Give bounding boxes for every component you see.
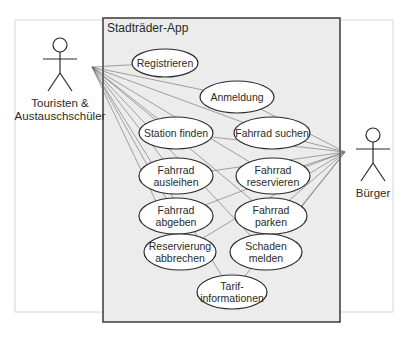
use-case-fahrrad-abgeben[interactable]: Fahrradabgeben [139,198,213,234]
use-case-label: ausleihen [154,176,199,188]
system-title: Stadträder-App [107,21,189,35]
use-case-label: Fahrrad [253,204,290,216]
use-case-anmeldung[interactable]: Anmeldung [200,81,274,113]
use-case-label: Station finden [144,127,208,139]
actor-label: Austauschschüler [15,110,106,122]
use-case-reservierung-abbrechen[interactable]: Reservierungabbrechen [144,234,216,270]
stick-figure-icon [356,128,390,181]
use-case-fahrrad-ausleihen[interactable]: Fahrradausleihen [139,158,213,194]
actor-label: Bürger [356,187,391,199]
use-case-label: abgeben [156,216,197,228]
use-case-tarifinformationen[interactable]: Tarif-informationen [197,275,267,309]
use-case-label: Anmeldung [210,91,263,103]
use-case-label: reservieren [247,176,300,188]
stick-figure-icon [43,38,77,91]
use-case-label: Tarif- [220,280,244,292]
use-case-label: melden [249,252,284,264]
use-case-label: parken [255,216,287,228]
actor-tourists: Touristen &Austauschschüler [15,38,106,122]
use-case-label: Schaden [245,240,287,252]
use-case-fahrrad-parken[interactable]: Fahrradparken [235,198,307,234]
use-case-label: Fahrrad [158,164,195,176]
use-case-label: Fahrrad [255,164,292,176]
use-case-fahrrad-suchen[interactable]: Fahrrad suchen [234,117,310,149]
actor-label: Touristen & [31,97,89,109]
use-case-label: Fahrrad [158,204,195,216]
use-case-label: Reservierung [149,240,212,252]
actor-citizen: Bürger [356,128,391,199]
use-case-schaden-melden[interactable]: Schadenmelden [230,234,302,270]
use-case-label: abbrechen [155,252,205,264]
use-case-diagram: Stadträder-App RegistrierenAnmeldungStat… [0,0,405,338]
use-case-fahrrad-reservieren[interactable]: Fahrradreservieren [236,158,310,194]
use-case-label: Fahrrad suchen [235,127,309,139]
use-case-registrieren[interactable]: Registrieren [132,49,198,77]
use-case-station-finden[interactable]: Station finden [139,117,213,149]
use-case-label: Registrieren [137,57,194,69]
use-case-label: informationen [200,292,264,304]
